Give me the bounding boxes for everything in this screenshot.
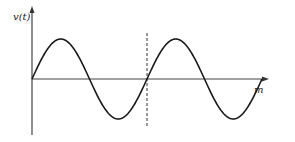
y-axis-label: v(t) <box>13 12 30 22</box>
sine-wave-diagram <box>0 0 295 142</box>
x-axis-label: m <box>254 85 263 95</box>
x-axis-arrow-icon <box>262 77 269 82</box>
